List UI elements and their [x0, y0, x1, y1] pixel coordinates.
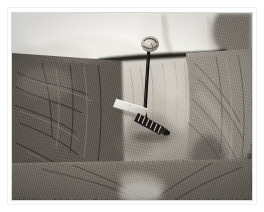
- photograph-canvas: [12, 13, 252, 200]
- page-root: Grayscale close-up photograph of an anim…: [0, 0, 264, 212]
- photograph: Grayscale close-up photograph of an anim…: [12, 13, 252, 200]
- film-grain-layer: [12, 13, 252, 200]
